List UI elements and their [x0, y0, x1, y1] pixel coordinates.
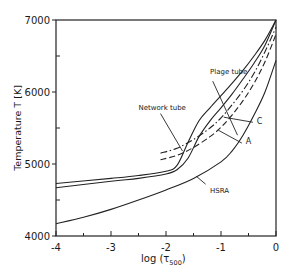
x-axis-label-sub: 500: [169, 259, 181, 267]
y-tick-label: 6000: [25, 87, 50, 98]
y-tick-label: 7000: [25, 15, 50, 26]
y-tick-label: 4000: [25, 231, 50, 242]
leader-line: [161, 114, 183, 151]
plot-frame: [56, 20, 276, 236]
leader-line: [224, 117, 253, 122]
axis-ticks: [52, 20, 276, 236]
annotation-a: A: [246, 137, 252, 146]
chart: -4-3-2-104000500060007000 Plage tubeNetw…: [0, 0, 296, 277]
x-axis-label-close: ): [182, 253, 186, 264]
annotation-hsra: HSRA: [210, 187, 229, 195]
y-axis-label: Temperature T [K]: [12, 85, 23, 172]
x-tick-label: 0: [273, 242, 279, 253]
series-hsra: [56, 60, 276, 223]
annotation-c: C: [257, 117, 263, 126]
leader-line: [196, 176, 205, 184]
x-tick-label: -3: [106, 242, 116, 253]
tick-labels: -4-3-2-104000500060007000: [25, 15, 280, 254]
annotation-network-tube: Network tube: [139, 104, 186, 112]
curves: [56, 20, 276, 224]
leader-line: [218, 130, 242, 143]
leader-line: [213, 81, 238, 135]
x-axis-label: log (τ500): [141, 253, 186, 267]
y-tick-label: 5000: [25, 159, 50, 170]
x-tick-label: -4: [51, 242, 61, 253]
annotation-plage-tube: Plage tube: [210, 68, 247, 76]
x-axis-label-main: log (τ: [141, 253, 169, 264]
series-a: [161, 34, 277, 159]
x-tick-label: -2: [161, 242, 171, 253]
series-c: [161, 27, 277, 153]
x-tick-label: -1: [216, 242, 226, 253]
